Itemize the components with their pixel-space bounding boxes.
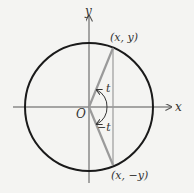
angle-t-label: t bbox=[106, 82, 111, 95]
point-upper-label: (x, y) bbox=[110, 31, 138, 44]
y-axis-label: y bbox=[84, 4, 92, 18]
angle-neg-t-label: −t bbox=[97, 121, 111, 134]
radius-upper bbox=[89, 48, 113, 107]
origin-label: O bbox=[76, 107, 86, 121]
unit-circle-diagram: y x O (x, y) (x, −y) t −t bbox=[0, 0, 194, 193]
diagram-canvas: y x O (x, y) (x, −y) t −t bbox=[0, 0, 194, 193]
point-lower-label: (x, −y) bbox=[111, 169, 148, 182]
x-axis-label: x bbox=[175, 100, 182, 114]
radius-lower bbox=[89, 107, 113, 165]
